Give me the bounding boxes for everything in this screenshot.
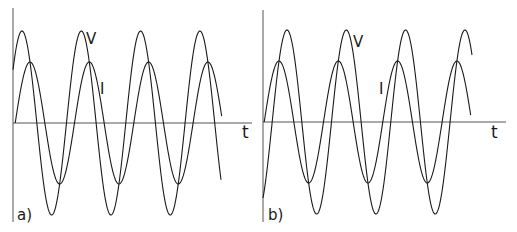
panel-a-voltage-label: V [86, 32, 96, 47]
ac-phase-diagram: V I t a) V I t b) [0, 0, 517, 232]
panel-b-current-label: I [379, 82, 383, 97]
panel-b-time-axis-label: t [491, 124, 498, 141]
panel-a-current-label: I [100, 82, 104, 97]
panel-a-time-axis-label: t [242, 124, 249, 141]
panel-a-caption: a) [17, 208, 32, 223]
panel-b-graph [263, 10, 506, 222]
panel-a-graph [13, 8, 252, 222]
panel-b-caption: b) [268, 208, 283, 223]
waveform-plots [0, 0, 517, 232]
panel-b-voltage-label: V [353, 35, 363, 50]
